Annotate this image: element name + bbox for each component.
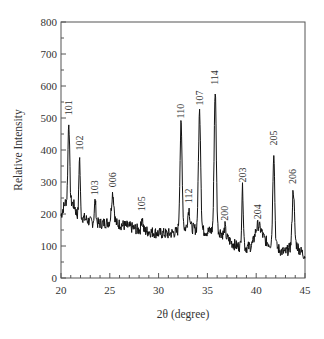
x-axis-title: 2θ (degree) — [157, 308, 210, 321]
y-tick-label: 100 — [41, 240, 58, 252]
x-tick-labels: 202530354045 — [56, 284, 312, 296]
peak-label-110: 110 — [175, 104, 186, 119]
peak-label-204: 204 — [252, 204, 263, 219]
y-tick-label: 400 — [41, 144, 58, 156]
plot-frame — [61, 22, 305, 278]
y-tick-label: 300 — [41, 176, 58, 188]
y-axis-title: Relative Intensity — [12, 109, 25, 191]
y-tick-label: 700 — [41, 48, 58, 60]
peak-label-006: 006 — [107, 172, 118, 187]
axes — [61, 22, 305, 278]
y-tick-label: 500 — [41, 112, 58, 124]
peak-label-105: 105 — [136, 196, 147, 211]
peak-label-102: 102 — [74, 135, 85, 150]
x-tick-label: 35 — [202, 284, 214, 296]
x-tick-label: 40 — [251, 284, 263, 296]
x-tick-label: 25 — [104, 284, 116, 296]
x-tick-label: 30 — [153, 284, 165, 296]
y-tick-label: 600 — [41, 80, 58, 92]
peak-label-112: 112 — [183, 189, 194, 204]
peak-label-200: 200 — [219, 206, 230, 221]
y-tick-labels: 0100200300400500600700800 — [41, 16, 58, 284]
y-tick-label: 0 — [52, 272, 58, 284]
peak-label-206: 206 — [287, 169, 298, 184]
minor-ticks — [61, 22, 305, 278]
x-tick-label: 45 — [300, 284, 312, 296]
xrd-chart: 202530354045 0100200300400500600700800 1… — [0, 0, 324, 339]
peak-label-101: 101 — [63, 100, 74, 115]
peak-label-107: 107 — [194, 91, 205, 106]
peak-label-114: 114 — [209, 70, 220, 85]
y-tick-label: 800 — [41, 16, 58, 28]
peak-label-103: 103 — [89, 180, 100, 195]
peak-label-205: 205 — [268, 131, 279, 146]
y-tick-label: 200 — [41, 208, 58, 220]
peak-label-203: 203 — [237, 167, 248, 182]
x-tick-label: 20 — [56, 284, 68, 296]
